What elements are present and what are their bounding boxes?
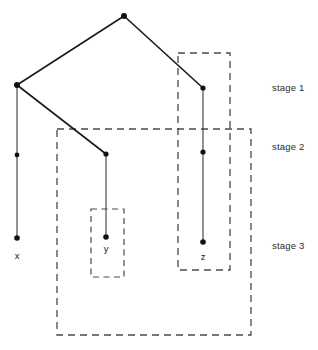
edge-root-zbranch xyxy=(124,16,203,88)
stage-label-1: stage 1 xyxy=(272,82,305,93)
node-xmid xyxy=(15,153,20,158)
dashed-box-large xyxy=(57,129,251,335)
dashed-box-group xyxy=(57,53,251,335)
stage-label-3: stage 3 xyxy=(272,240,305,251)
edge-root-left xyxy=(17,16,124,85)
leaf-label-z: z xyxy=(201,251,206,262)
node-zmid xyxy=(200,149,205,154)
edge-left-ybranch xyxy=(17,85,106,154)
node-ybranch xyxy=(103,151,108,156)
node-yleaf xyxy=(103,234,109,240)
leaf-label-y: y xyxy=(104,243,109,254)
dashed-box-z xyxy=(178,53,230,270)
node-left xyxy=(14,82,20,88)
diagram-canvas: x y z stage 1 stage 2 stage 3 xyxy=(0,0,318,350)
node-root xyxy=(121,13,127,19)
tree-diagram-svg: x y z xyxy=(0,0,318,350)
leaf-label-group: x y z xyxy=(15,243,206,262)
node-xleaf xyxy=(14,235,20,241)
leaf-label-x: x xyxy=(15,250,20,261)
stage-label-2: stage 2 xyxy=(272,141,305,152)
node-zleaf xyxy=(200,239,206,245)
node-zbranch xyxy=(200,85,205,90)
